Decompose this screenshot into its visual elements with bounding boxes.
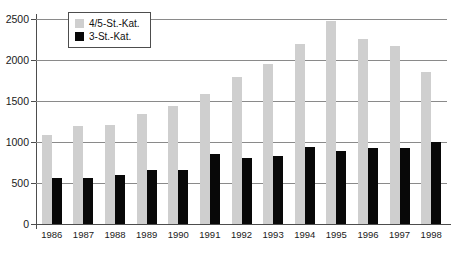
gridline <box>36 60 447 61</box>
bar <box>358 39 368 224</box>
bar <box>368 148 378 224</box>
bar <box>295 44 305 224</box>
legend-item: 3-St.-Kat. <box>75 30 140 43</box>
legend-label: 4/5-St.-Kat. <box>89 18 140 29</box>
bar <box>210 154 220 224</box>
legend-label: 3-St.-Kat. <box>89 31 131 42</box>
bar <box>421 72 431 224</box>
plot-area <box>36 19 447 224</box>
bar <box>431 142 441 224</box>
gridline <box>36 142 447 143</box>
x-axis-line <box>31 224 451 225</box>
bar <box>305 147 315 224</box>
bar <box>200 94 210 224</box>
bar <box>52 178 62 224</box>
bar <box>390 46 400 224</box>
bar <box>168 106 178 224</box>
bar <box>273 156 283 224</box>
bar <box>232 77 242 224</box>
bar <box>147 170 157 224</box>
bar <box>115 175 125 224</box>
bar <box>263 64 273 224</box>
bar <box>42 135 52 224</box>
y-axis-tick-label: 500 <box>0 178 29 188</box>
legend-swatch-icon <box>75 32 84 41</box>
legend-swatch-icon <box>75 19 84 28</box>
bar <box>73 126 83 224</box>
y-axis-tick-label: 1500 <box>0 96 29 106</box>
bar <box>326 21 336 224</box>
gridline <box>36 101 447 102</box>
x-axis-tick-label: 1998 <box>411 229 451 240</box>
bar <box>83 178 93 224</box>
bar <box>105 125 115 224</box>
bar <box>137 114 147 224</box>
y-axis-tick-label: 1000 <box>0 137 29 147</box>
bar-chart: 2500 2000 1500 1000 500 0 19861987198819… <box>0 0 455 259</box>
bar <box>336 151 346 224</box>
legend-item: 4/5-St.-Kat. <box>75 17 140 30</box>
y-axis-tick-label: 0 <box>0 219 29 229</box>
bar <box>400 148 410 224</box>
bar <box>242 158 252 224</box>
y-axis-tick-label: 2500 <box>0 14 29 24</box>
bar <box>178 170 188 224</box>
y-axis-tick-label: 2000 <box>0 55 29 65</box>
chart-legend: 4/5-St.-Kat. 3-St.-Kat. <box>68 12 151 48</box>
